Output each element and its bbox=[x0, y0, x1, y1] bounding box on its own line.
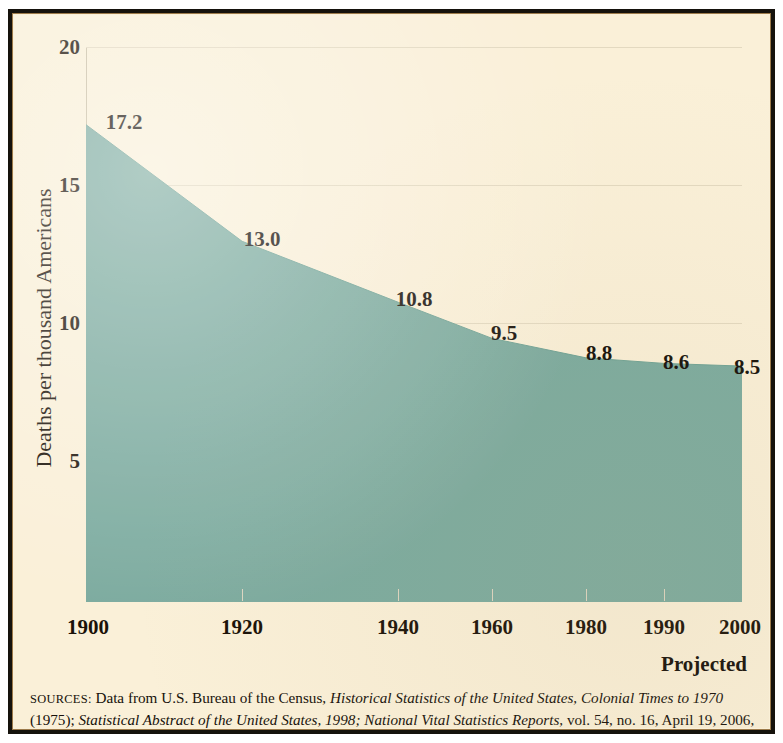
x-axis-label-1900: 1900 bbox=[67, 615, 109, 640]
sources-line2-italic1: Statistical Abstract of the United State… bbox=[79, 711, 361, 728]
x-axis-label-1940: 1940 bbox=[377, 615, 419, 640]
x-axis-label-1960: 1960 bbox=[471, 615, 513, 640]
data-label-1940: 10.8 bbox=[396, 287, 433, 312]
sources-line1-italic1: Historical Statistics of the United Stat… bbox=[330, 689, 723, 706]
chart-canvas: Deaths per thousand Americans 20 15 10 5 bbox=[14, 15, 769, 728]
y-axis-tick-labels: 20 15 10 5 bbox=[28, 15, 80, 615]
data-label-1990: 8.6 bbox=[663, 350, 689, 375]
x-axis-label-2000: 2000 bbox=[719, 615, 761, 640]
data-label-1920: 13.0 bbox=[244, 227, 281, 252]
x-tick-1960 bbox=[492, 589, 493, 601]
data-label-2000: 8.5 bbox=[734, 355, 760, 380]
data-label-1960: 9.5 bbox=[491, 321, 517, 346]
sources-label: SOURCES: bbox=[30, 692, 92, 706]
figure-page: Deaths per thousand Americans 20 15 10 5 bbox=[0, 0, 783, 743]
sources-line1-plain1: Data from U.S. Bureau of the Census, bbox=[95, 689, 326, 706]
y-tick-label-20: 20 bbox=[38, 37, 80, 58]
x-tick-1940 bbox=[398, 589, 399, 601]
sources-line1-plain2: (1975); bbox=[30, 711, 75, 728]
data-label-1900: 17.2 bbox=[106, 110, 143, 135]
plot-area bbox=[86, 47, 742, 602]
area-series-death-rate bbox=[86, 47, 742, 602]
data-label-1980: 8.8 bbox=[586, 341, 612, 366]
x-axis-label-1980: 1980 bbox=[565, 615, 607, 640]
x-axis-label-1990: 1990 bbox=[643, 615, 685, 640]
sources-line2-italic2: National Vital Statistics Reports, bbox=[364, 711, 563, 728]
x-tick-1980 bbox=[586, 589, 587, 601]
projected-annotation: Projected bbox=[661, 652, 747, 677]
x-tick-1920 bbox=[242, 589, 243, 601]
y-tick-label-5: 5 bbox=[38, 451, 80, 472]
x-tick-1990 bbox=[664, 589, 665, 601]
sources-caption: SOURCES: Data from U.S. Bureau of the Ce… bbox=[30, 687, 755, 728]
y-tick-label-10: 10 bbox=[38, 313, 80, 334]
y-tick-label-15: 15 bbox=[38, 175, 80, 196]
x-axis-label-1920: 1920 bbox=[221, 615, 263, 640]
